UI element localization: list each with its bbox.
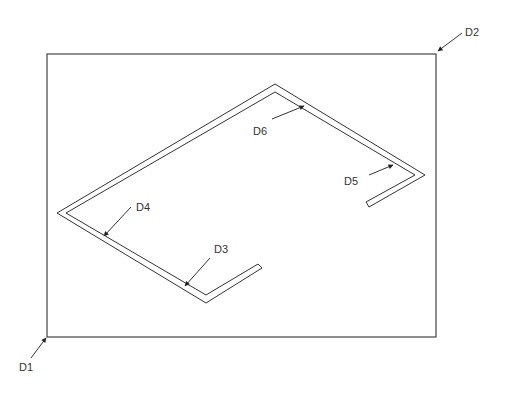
leader-d2 <box>438 33 462 51</box>
channel-shape <box>57 84 425 303</box>
label-d2: D2 <box>465 26 479 38</box>
channel-outer-edge <box>57 84 425 303</box>
channel-inner-edge <box>66 92 415 295</box>
drawing-canvas: D1 D2 D3 D4 D5 D6 <box>0 0 510 395</box>
leader-d4 <box>104 207 131 236</box>
channel-end-cap-left <box>258 264 262 268</box>
channel-end-cap-right <box>366 202 369 207</box>
leader-d1 <box>31 338 46 358</box>
label-d1: D1 <box>19 361 33 373</box>
leader-d6 <box>272 106 304 119</box>
leader-d3 <box>185 258 210 286</box>
label-d4: D4 <box>136 201 150 213</box>
label-d6: D6 <box>253 125 267 137</box>
isometric-drawing: D1 D2 D3 D4 D5 D6 <box>0 0 510 395</box>
leader-d5 <box>369 165 393 175</box>
label-d3: D3 <box>214 243 228 255</box>
label-d5: D5 <box>344 175 358 187</box>
